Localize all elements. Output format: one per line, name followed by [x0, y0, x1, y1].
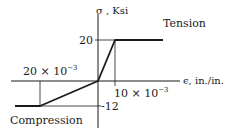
- stress-tick-minus-12: -12: [101, 101, 119, 112]
- compression-strain-label: 20 × 10−3: [23, 66, 78, 77]
- compression-label: Compression: [10, 115, 83, 126]
- x-axis-label: ϵ, in./in.: [183, 76, 224, 86]
- stress-tick-20: 20: [79, 35, 93, 46]
- compression-strain-base: 20 × 10: [23, 65, 67, 78]
- tension-label: Tension: [163, 18, 206, 29]
- tension-strain-exp: −3: [158, 86, 168, 94]
- compression-strain-exp: −3: [67, 64, 77, 72]
- tension-strain-label: 10 × 10−3: [114, 88, 169, 99]
- tension-strain-base: 10 × 10: [114, 87, 158, 100]
- y-axis-label: σ , Ksi: [96, 6, 128, 16]
